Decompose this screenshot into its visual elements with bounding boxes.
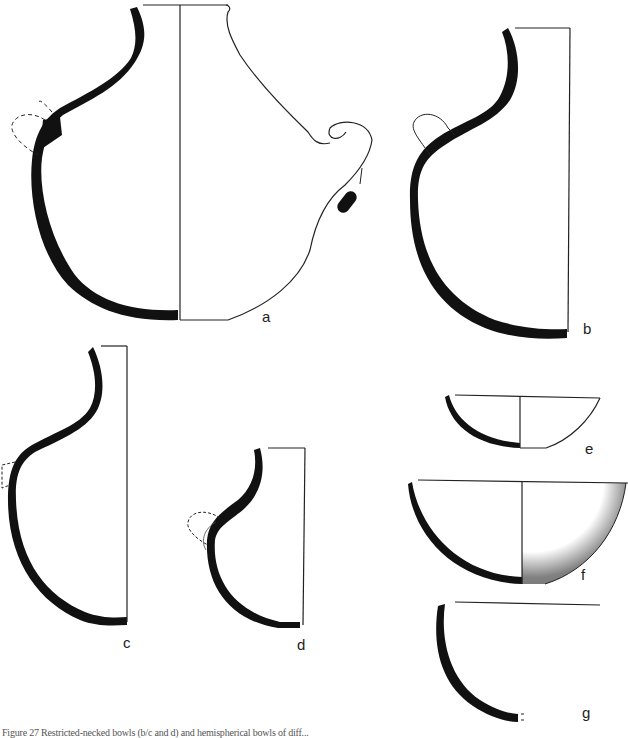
- vessel-f-stipple: [522, 483, 626, 584]
- label-c: c: [123, 634, 131, 651]
- vessel-f: [408, 480, 628, 584]
- vessel-g-section: [436, 604, 518, 722]
- label-f: f: [581, 566, 585, 583]
- vessel-b-section: [410, 28, 567, 339]
- vessel-b: [410, 28, 570, 339]
- label-e: e: [585, 440, 593, 457]
- vessel-c: [2, 346, 127, 625]
- vessel-a-handle-thickening: [40, 117, 62, 150]
- vessel-g: [436, 602, 600, 722]
- vessel-a-section: [31, 7, 178, 320]
- label-a: a: [262, 308, 270, 325]
- vessel-e-section: [445, 395, 520, 448]
- vessel-d: [188, 448, 305, 628]
- label-g: g: [582, 704, 590, 721]
- vessel-a-outline: [180, 5, 372, 320]
- vessel-a-handle-section: [335, 189, 359, 215]
- vessel-c-section: [8, 347, 127, 625]
- vessel-d-section: [207, 448, 300, 628]
- figure-caption: Figure 27 Restricted-necked bowls (b/c a…: [2, 727, 309, 738]
- vessel-a: [12, 5, 372, 320]
- vessel-e: [445, 395, 600, 448]
- label-b: b: [583, 320, 591, 337]
- vessel-f-section: [408, 482, 522, 584]
- label-d: d: [297, 636, 305, 653]
